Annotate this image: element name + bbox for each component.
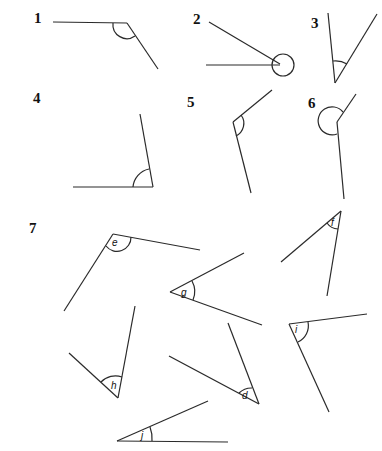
angle-f: f: [281, 211, 341, 296]
angle-3: [328, 13, 377, 83]
angle-label-f: f: [331, 217, 335, 228]
angle-label-e: e: [112, 237, 118, 248]
question-number-1: 1: [34, 10, 42, 26]
question-number-2: 2: [193, 11, 201, 27]
angle-label-h: h: [111, 380, 117, 391]
angle-label-i: i: [295, 324, 298, 335]
question-number-7: 7: [29, 220, 37, 236]
angle-label-d: d: [242, 390, 248, 401]
question-number-5: 5: [187, 94, 195, 110]
angle-i: i: [289, 314, 367, 412]
angle-2: [206, 22, 294, 76]
angle-1: [53, 22, 158, 69]
question-number-6: 6: [308, 95, 316, 111]
angle-6: [318, 94, 356, 199]
angle-5: [233, 90, 272, 193]
angle-e: e: [64, 234, 200, 311]
question-number-4: 4: [33, 90, 41, 106]
angle-d: d: [169, 323, 259, 404]
angle-g: g: [170, 253, 262, 325]
angle-j: j: [117, 401, 228, 442]
angle-4: [73, 114, 153, 187]
angle-h: h: [69, 306, 135, 398]
question-number-3: 3: [311, 15, 319, 31]
angle-label-g: g: [181, 287, 187, 298]
angles-worksheet: 1 2 3 4 5 6 7: [0, 0, 382, 451]
